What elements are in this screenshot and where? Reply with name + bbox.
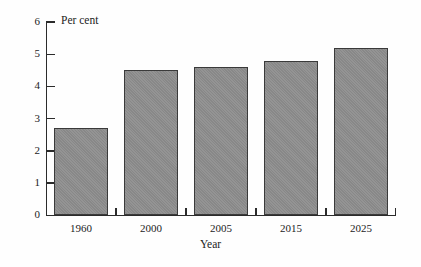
x-axis-tick-label: 2000 [116, 222, 186, 234]
x-axis-tick-label: 2005 [186, 222, 256, 234]
y-axis-tick-label-wrap: 5 [12, 48, 40, 59]
x-axis-tick [325, 208, 326, 215]
y-axis-tick-label-wrap: 1 [12, 177, 40, 188]
y-axis-tick-label-wrap: 4 [12, 80, 40, 91]
x-axis-tick-label: 1960 [46, 222, 116, 234]
y-axis-tick-label-wrap: 6 [12, 16, 40, 27]
y-axis-tick-label: 4 [16, 80, 40, 91]
bar-chart-figure: Per cent 0123456 19602000200520152025 Ye… [0, 0, 421, 267]
y-axis-tick [46, 54, 55, 55]
y-axis-tick-label: 3 [16, 113, 40, 124]
x-axis-tick-label: 2025 [326, 222, 396, 234]
y-axis-tick-label: 2 [16, 145, 40, 156]
y-axis-title: Per cent [61, 14, 98, 27]
y-axis-tick [46, 21, 55, 22]
bar [264, 61, 318, 216]
y-axis-tick-label-wrap: 2 [12, 145, 40, 156]
x-axis-tick [255, 208, 256, 215]
y-axis-tick-label: 5 [16, 48, 40, 59]
y-axis-tick-label-wrap: 3 [12, 113, 40, 124]
y-axis-tick-label: 1 [16, 177, 40, 188]
y-axis-tick [46, 118, 55, 119]
y-axis-tick-label: 0 [16, 209, 40, 220]
y-axis-tick [46, 86, 55, 87]
x-axis-tick-label: 2015 [256, 222, 326, 234]
bar [124, 70, 178, 215]
x-axis-tick [115, 208, 116, 215]
bar [194, 67, 248, 215]
x-axis-title: Year [0, 238, 421, 251]
x-axis-tick [185, 208, 186, 215]
y-axis-tick-label: 6 [16, 16, 40, 27]
y-axis-tick-label-wrap: 0 [12, 209, 40, 220]
bar [334, 48, 388, 216]
bar [54, 128, 108, 215]
x-axis-end-cap [395, 208, 396, 215]
